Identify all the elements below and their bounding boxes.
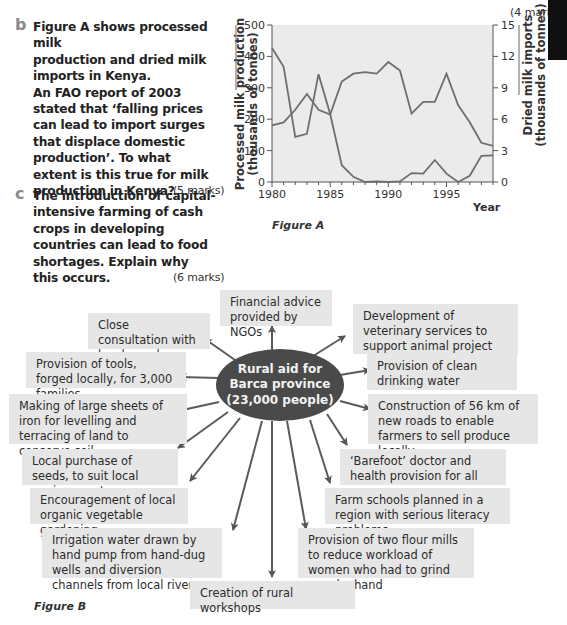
aid-box-gardening: Encouragement of local organic vegetable… xyxy=(30,488,188,524)
central-node-line: Rural aid for xyxy=(226,362,333,378)
aid-box-veterinary: Development of veterinary services to su… xyxy=(353,304,518,354)
aid-box-mills: Provision of two flour mills to reduce w… xyxy=(298,528,474,578)
aid-box-roads: Construction of 56 km of new roads to en… xyxy=(368,394,538,444)
central-node-line: Barca province xyxy=(226,377,333,393)
aid-box-water: Provision of clean drinking water xyxy=(367,354,517,390)
figure-b-caption: Figure B xyxy=(34,600,86,613)
central-node-rural-aid: Rural aid for Barca province (23,000 peo… xyxy=(216,349,344,421)
aid-box-tools: Provision of tools, forged locally, for … xyxy=(26,352,186,388)
aid-box-iron: Making of large sheets of iron for level… xyxy=(9,394,187,444)
aid-box-seeds: Local purchase of seeds, to suit local e… xyxy=(22,449,178,485)
central-node-line: (23,000 people) xyxy=(226,393,333,409)
aid-box-financial: Financial advice provided by NGOs xyxy=(220,290,332,326)
aid-box-irrigation: Irrigation water drawn by hand pump from… xyxy=(42,528,222,578)
aid-box-barefoot: ‘Barefoot’ doctor and health provision f… xyxy=(340,449,506,485)
aid-box-schools: Farm schools planned in a region with se… xyxy=(325,488,510,524)
aid-box-consultation: Close consultation with local people xyxy=(88,313,210,349)
aid-box-workshops: Creation of rural workshops xyxy=(190,581,355,609)
